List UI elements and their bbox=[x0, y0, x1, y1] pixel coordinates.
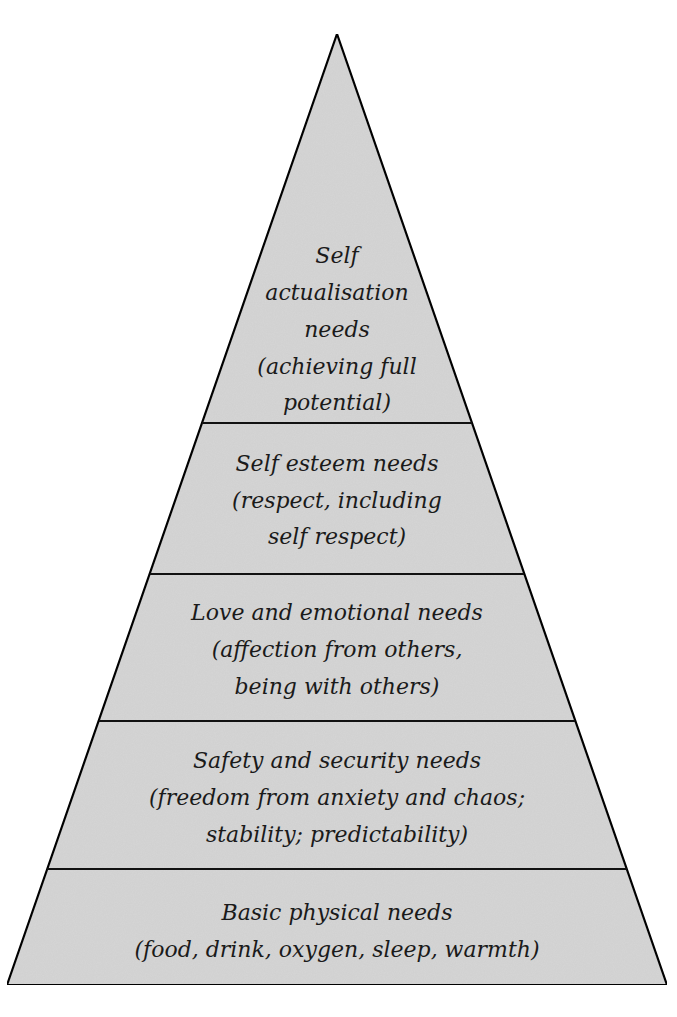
tier-3-line-3: being with others) bbox=[235, 674, 440, 699]
tier-4-line-1: Safety and security needs bbox=[193, 748, 481, 773]
tier-2-line-1: Self esteem needs bbox=[236, 451, 439, 476]
tier-4-line-3: stability; predictability) bbox=[206, 822, 468, 847]
tier-1-line-3: needs bbox=[304, 317, 370, 342]
tier-1-line-4: (achieving full bbox=[257, 354, 416, 379]
tier-2-line-2: (respect, including bbox=[232, 488, 442, 513]
tier-1-line-1: Self bbox=[315, 243, 362, 268]
tier-love-emotional: Love and emotional needs (affection from… bbox=[190, 600, 483, 699]
tier-4-line-2: (freedom from anxiety and chaos; bbox=[149, 785, 525, 810]
tier-2-line-3: self respect) bbox=[268, 524, 406, 549]
tier-1-line-2: actualisation bbox=[265, 280, 408, 305]
tier-1-line-5: potential) bbox=[283, 390, 391, 415]
tier-3-line-2: (affection from others, bbox=[212, 637, 463, 662]
tier-3-line-1: Love and emotional needs bbox=[190, 600, 483, 625]
tier-5-line-2: (food, drink, oxygen, sleep, warmth) bbox=[134, 937, 539, 962]
tier-5-line-1: Basic physical needs bbox=[221, 900, 453, 925]
needs-pyramid: Self actualisation needs (achieving full… bbox=[0, 0, 677, 1017]
